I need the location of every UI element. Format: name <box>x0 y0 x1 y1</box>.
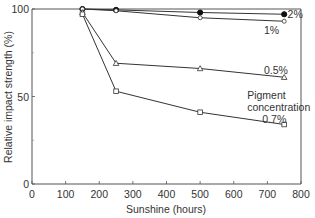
marker-open-circle <box>198 16 202 20</box>
marker-filled-circle <box>198 10 203 15</box>
y-tick-label: 0 <box>23 178 29 190</box>
x-tick-label: 400 <box>158 188 176 200</box>
x-tick-label: 500 <box>191 188 209 200</box>
x-tick-label: 300 <box>124 188 142 200</box>
annotation-label: 2% <box>288 8 303 20</box>
annotation-label: 1% <box>264 24 279 36</box>
line-chart: 0100200300400500600700800050100 2%1%0.5%… <box>0 0 315 218</box>
marker-open-circle <box>282 19 286 23</box>
x-tick-label: 700 <box>259 188 277 200</box>
y-axis-label: Relative impact strength (%) <box>2 31 14 163</box>
marker-open-square <box>198 110 203 115</box>
series-line-1- <box>82 9 284 21</box>
x-axis-label: Sunshine (hours) <box>126 203 206 215</box>
y-tick-label: 100 <box>11 3 29 15</box>
x-tick-label: 800 <box>292 188 310 200</box>
marker-open-square <box>80 12 85 17</box>
series-line-2- <box>82 9 284 14</box>
x-tick-label: 0 <box>29 188 35 200</box>
annotation-label: Pigment <box>247 89 286 101</box>
annotation-label: 0.5% <box>264 64 288 76</box>
annotation-label: 0.7% <box>262 113 286 125</box>
series-line-0-5- <box>82 13 284 78</box>
marker-open-circle <box>114 9 118 13</box>
annotation-label: concentration <box>247 101 310 113</box>
y-tick-label: 50 <box>17 91 29 103</box>
x-tick-label: 100 <box>57 188 75 200</box>
x-tick-label: 600 <box>225 188 243 200</box>
x-tick-label: 200 <box>90 188 108 200</box>
marker-filled-circle <box>282 12 287 17</box>
marker-open-square <box>114 89 119 94</box>
